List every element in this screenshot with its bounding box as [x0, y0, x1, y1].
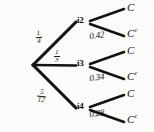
- outcome-base: C: [127, 70, 134, 82]
- outcome-base: C: [127, 44, 134, 56]
- outcome-base: C: [127, 113, 134, 125]
- outcome-label-cc-1: Cc: [127, 28, 137, 39]
- outcome-label-c-3: C: [127, 88, 134, 99]
- outcome-probability-1: 0.42: [89, 30, 105, 41]
- edge-i2-c: [90, 9, 124, 21]
- fraction-denominator: 3: [54, 56, 60, 64]
- outcome-superscript: c: [135, 113, 138, 119]
- outcome-label-c-2: C: [127, 45, 134, 56]
- node-label-i4: i4: [77, 102, 83, 111]
- fraction-denominator: 4: [36, 37, 42, 46]
- outcome-label-c-1: C: [127, 2, 134, 13]
- outcome-base: C: [127, 1, 134, 13]
- outcome-base: C: [127, 87, 134, 99]
- probability-tree-figure: 1 4 1 3 5 12 i2 i3 i4 0.42 0.34 0.28 C C…: [0, 0, 154, 132]
- fraction-numerator: 1: [54, 49, 60, 56]
- outcome-superscript: c: [135, 27, 138, 33]
- node-label-i2: i2: [77, 16, 83, 25]
- outcome-label-cc-3: Cc: [127, 114, 137, 125]
- node-label-i3: i3: [77, 59, 83, 68]
- branch-probability-3: 5 12: [36, 89, 47, 105]
- edge-i3-c: [90, 52, 124, 64]
- outcome-label-cc-2: Cc: [127, 71, 137, 82]
- outcome-probability-2: 0.34: [89, 72, 105, 83]
- outcome-base: C: [127, 27, 134, 39]
- edge-root-i3: [33, 65, 76, 66]
- branch-probability-2: 1 3: [54, 49, 60, 64]
- edge-i4-c: [90, 95, 124, 107]
- fraction-denominator: 12: [36, 96, 46, 105]
- outcome-superscript: c: [135, 70, 138, 76]
- outcome-probability-3: 0.28: [89, 108, 105, 119]
